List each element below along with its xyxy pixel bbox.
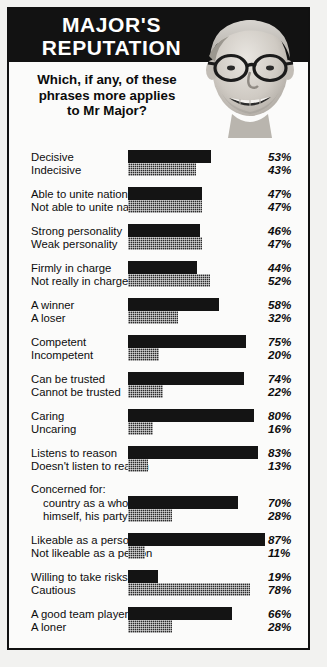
bar [128,224,200,237]
bar-row-label: Not really in charge [31,275,128,287]
bar-row-label: Uncaring [31,423,76,435]
bar [128,274,210,287]
survey-question: Which, if any, of these phrases more app… [12,72,202,119]
reputation-bar-chart: Decisive53%Indecisive43%Able to unite na… [0,150,327,655]
bar-value-label: 19% [268,571,291,583]
bar-value-label: 47% [268,188,291,200]
bar-row-label: Cannot be trusted [31,386,121,398]
bar [128,187,202,200]
bar-value-label: 74% [268,373,291,385]
john-major-portrait-photo [196,6,304,138]
bar-row-label: himself, his party [43,510,128,522]
infographic-page: MAJOR'S REPUTATION Which, if any, of the… [0,0,327,667]
bar-row-label: Likeable as a person [31,534,135,546]
bar [128,298,219,311]
bar-row-label: Cautious [31,584,76,596]
bar-value-label: 11% [268,547,290,559]
bar-value-label: 47% [268,201,291,213]
bar [128,311,178,324]
bar [128,446,258,459]
bar [128,496,238,509]
bar-value-label: 87% [268,534,291,546]
bar [128,409,254,422]
bar-value-label: 43% [268,164,291,176]
portrait-illustration [196,6,304,138]
bar [128,163,196,176]
bar [128,237,202,250]
bar-row-label: Strong personality [31,225,122,237]
bar-value-label: 70% [268,497,291,509]
bar-value-label: 16% [268,423,291,435]
bar-row-label: Caring [31,410,64,422]
bar-value-label: 78% [268,584,291,596]
bar-row-label: Decisive [31,151,74,163]
bar-group-header: Concerned for: [31,483,106,495]
bar-value-label: 83% [268,447,291,459]
bar [128,459,148,472]
bar [128,200,202,213]
bar-value-label: 47% [268,238,291,250]
bar [128,261,197,274]
bar-value-label: 22% [268,386,291,398]
bar [128,607,232,620]
bar-value-label: 20% [268,349,291,361]
bar-value-label: 28% [268,621,291,633]
bar-row-label: Competent [31,336,86,348]
bar [128,570,158,583]
bar [128,422,153,435]
bar-row-label: Can be trusted [31,373,105,385]
bar-row-label: Willing to take risks [31,571,128,583]
bar-value-label: 53% [268,151,291,163]
bar [128,546,145,559]
bar-row-label: A loser [31,312,66,324]
bar-value-label: 66% [268,608,291,620]
bar-value-label: 13% [268,460,291,472]
bar-row-label: Listens to reason [31,447,117,459]
bar-row-label: Able to unite nation [31,188,128,200]
bar-value-label: 75% [268,336,291,348]
bar-row-label: Firmly in charge [31,262,111,274]
bar [128,583,250,596]
bar-value-label: 44% [268,262,291,274]
bar [128,150,211,163]
bar-value-label: 32% [268,312,291,324]
bar-row-label: Incompetent [31,349,93,361]
bar-value-label: 46% [268,225,291,237]
bar-row-label: A winner [31,299,74,311]
bar [128,509,172,522]
bar [128,335,246,348]
bar-value-label: 52% [268,275,291,287]
bar-row-label: country as a whole [43,497,137,509]
bar [128,385,163,398]
bar [128,372,244,385]
bar-value-label: 58% [268,299,291,311]
bar-row-label: A good team player [31,608,128,620]
bar-value-label: 28% [268,510,291,522]
bar-value-label: 80% [268,410,291,422]
bar-row-label: Indecisive [31,164,81,176]
bar [128,620,172,633]
bar-row-label: Weak personality [31,238,117,250]
page-title: MAJOR'S REPUTATION [9,13,214,59]
bar [128,348,159,361]
bar-row-label: A loner [31,621,66,633]
bar [128,533,265,546]
